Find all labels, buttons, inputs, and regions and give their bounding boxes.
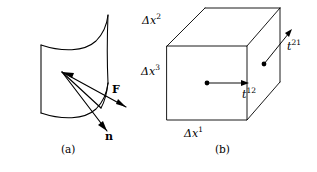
panel-a: F n (a) bbox=[0, 0, 158, 172]
front-face-center-point bbox=[205, 81, 210, 86]
traction-t12-label: t12 bbox=[242, 89, 256, 100]
cube-edge-top-right-depth bbox=[247, 8, 280, 46]
right-face-center-point bbox=[262, 62, 267, 67]
cube-edge-top-left-depth bbox=[167, 8, 205, 46]
traction-t21-arrowhead bbox=[285, 29, 292, 37]
force-vector-arrowhead bbox=[116, 99, 126, 107]
delta-x1-base: Δx bbox=[184, 127, 198, 140]
panel-b-caption: (b) bbox=[215, 144, 230, 155]
traction-t21-shaft bbox=[264, 33, 289, 64]
force-vector-label: F bbox=[112, 84, 120, 95]
delta-x3-base: Δx bbox=[141, 65, 155, 78]
surface-top-curve bbox=[41, 15, 108, 50]
surface-right-edge bbox=[107, 15, 108, 83]
normal-vector-shaft bbox=[62, 72, 107, 131]
panel-b-drawing bbox=[158, 0, 317, 172]
delta-x1-label: Δx1 bbox=[184, 128, 203, 139]
traction-t21-label: t21 bbox=[287, 41, 301, 52]
figure-container: F n (a) bbox=[0, 0, 317, 172]
panel-b: Δx2 Δx3 Δx1 t21 t12 (b) bbox=[158, 0, 317, 172]
normal-vector-label: n bbox=[105, 131, 113, 142]
delta-x2-sup: 2 bbox=[156, 12, 161, 21]
delta-x2-base: Δx bbox=[142, 14, 156, 27]
traction-t21-sup: 21 bbox=[291, 38, 301, 47]
delta-x1-sup: 1 bbox=[198, 125, 203, 134]
panel-a-caption: (a) bbox=[61, 144, 75, 155]
traction-t12-arrowhead bbox=[241, 80, 249, 86]
delta-x3-label: Δx3 bbox=[141, 66, 160, 77]
panel-a-drawing bbox=[0, 0, 158, 172]
delta-x3-sup: 3 bbox=[155, 63, 160, 72]
delta-x2-label: Δx2 bbox=[142, 15, 161, 26]
traction-t12-sup: 12 bbox=[246, 86, 256, 95]
